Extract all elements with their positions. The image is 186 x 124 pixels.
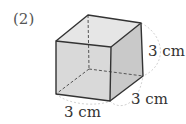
front-face [56, 41, 111, 101]
height-label: 3 cm [148, 44, 185, 59]
depth-label: 3 cm [131, 92, 168, 107]
problem-number: (2) [13, 12, 34, 27]
width-label: 3 cm [64, 105, 101, 120]
